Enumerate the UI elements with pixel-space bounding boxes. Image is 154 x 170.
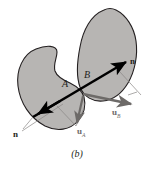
- label-normal-left: n: [13, 130, 18, 139]
- label-velocity-u-a: uA: [77, 127, 85, 138]
- figure-container: A B n n uA uB (b): [0, 0, 154, 170]
- label-point-a: A: [62, 79, 68, 89]
- label-u-a-subscript: A: [82, 132, 85, 138]
- label-point-b: B: [84, 70, 90, 80]
- diagram-canvas: [0, 0, 154, 170]
- label-velocity-u-b: uB: [112, 108, 120, 119]
- figure-caption: (b): [0, 148, 154, 159]
- u-b-guide-line: [128, 92, 137, 95]
- label-u-b-subscript: B: [117, 113, 120, 119]
- label-normal-right: n: [130, 57, 135, 66]
- body-a-blob: [18, 46, 85, 129]
- body-b-blob: [77, 9, 136, 102]
